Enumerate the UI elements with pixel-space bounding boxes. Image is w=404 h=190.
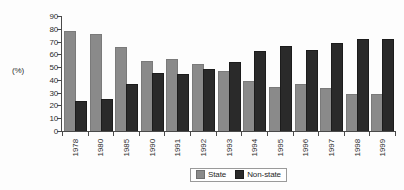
x-axis-label-1997: 1997: [327, 139, 336, 156]
y-tick-mark: [57, 67, 61, 68]
bar-non-state-1999: [382, 39, 394, 131]
y-tick-mark: [57, 118, 61, 119]
y-axis-tick-20: 20: [34, 101, 58, 110]
y-axis-tick-30: 30: [34, 88, 58, 97]
bar-non-state-1991: [177, 74, 189, 131]
bar-non-state-1980: [101, 99, 113, 131]
y-axis-tick-40: 40: [34, 75, 58, 84]
y-axis-tick-10: 10: [34, 114, 58, 123]
y-axis-tick-50: 50: [34, 63, 58, 72]
x-axis-label-1998: 1998: [353, 139, 362, 156]
x-tick-mark: [164, 132, 165, 136]
x-axis-line: [61, 131, 396, 132]
x-axis-label-1999: 1999: [378, 139, 387, 156]
y-tick-mark: [57, 29, 61, 30]
bar-group-1999: [369, 16, 395, 131]
x-axis-label-1985: 1985: [122, 139, 131, 156]
y-tick-mark: [57, 16, 61, 17]
bar-non-state-1978: [75, 101, 87, 131]
bar-group-1985: [113, 16, 139, 131]
bar-non-state-1995: [280, 46, 292, 131]
bar-group-1995: [267, 16, 293, 131]
bar-non-state-1993: [229, 62, 241, 131]
y-axis-tick-labels: 0102030405060708090: [34, 16, 58, 131]
x-axis-label-1978: 1978: [71, 139, 80, 156]
y-axis-tick-70: 70: [34, 37, 58, 46]
bar-group-1998: [344, 16, 370, 131]
bar-non-state-1998: [357, 39, 369, 131]
x-axis-label-1980: 1980: [96, 139, 105, 156]
x-tick-mark: [88, 132, 89, 136]
chart-legend: State Non-state: [190, 168, 287, 182]
x-tick-mark: [344, 132, 345, 136]
y-axis-title: (%): [12, 66, 24, 75]
x-axis-label-1995: 1995: [276, 139, 285, 156]
legend-label-state: State: [208, 170, 226, 179]
y-tick-mark: [57, 105, 61, 106]
y-tick-mark: [57, 80, 61, 81]
bar-group-1980: [88, 16, 114, 131]
bar-group-1991: [164, 16, 190, 131]
y-tick-mark: [57, 93, 61, 94]
y-axis-tick-60: 60: [34, 50, 58, 59]
bar-group-1990: [139, 16, 165, 131]
bar-group-1993: [216, 16, 242, 131]
x-tick-mark: [293, 132, 294, 136]
bar-non-state-1996: [306, 50, 318, 132]
x-tick-mark: [216, 132, 217, 136]
x-tick-mark: [241, 132, 242, 136]
state-swatch-icon: [196, 170, 205, 179]
bar-group-1996: [293, 16, 319, 131]
y-tick-mark: [57, 131, 61, 132]
x-tick-mark: [113, 132, 114, 136]
bar-non-state-1985: [126, 84, 138, 131]
x-axis-label-1994: 1994: [250, 139, 259, 156]
nonstate-swatch-icon: [235, 170, 244, 179]
bar-group-1992: [190, 16, 216, 131]
y-axis-tick-80: 80: [34, 24, 58, 33]
legend-label-nonstate: Non-state: [247, 170, 281, 179]
x-axis-label-1996: 1996: [301, 139, 310, 156]
x-tick-mark: [190, 132, 191, 136]
x-axis-label-1990: 1990: [148, 139, 157, 156]
bar-non-state-1994: [254, 51, 266, 131]
bar-group-1978: [62, 16, 88, 131]
bar-non-state-1992: [203, 69, 215, 131]
y-tick-mark: [57, 54, 61, 55]
plot-area: [62, 16, 395, 131]
x-axis-label-1991: 1991: [173, 139, 182, 156]
x-tick-mark: [139, 132, 140, 136]
x-tick-mark: [318, 132, 319, 136]
x-tick-mark: [395, 132, 396, 136]
bar-non-state-1990: [152, 73, 164, 132]
legend-entry-state: State: [196, 170, 226, 179]
x-tick-mark: [369, 132, 370, 136]
y-axis-tick-0: 0: [34, 127, 58, 136]
bar-non-state-1997: [331, 43, 343, 131]
bar-chart: (%) 0102030405060708090 State Non-state …: [0, 0, 404, 190]
bar-group-1994: [241, 16, 267, 131]
x-axis-label-1993: 1993: [225, 139, 234, 156]
bar-group-1997: [318, 16, 344, 131]
x-tick-mark: [62, 132, 63, 136]
x-axis-label-1992: 1992: [199, 139, 208, 156]
x-tick-mark: [267, 132, 268, 136]
y-axis-tick-90: 90: [34, 12, 58, 21]
legend-entry-nonstate: Non-state: [235, 170, 281, 179]
y-tick-mark: [57, 42, 61, 43]
